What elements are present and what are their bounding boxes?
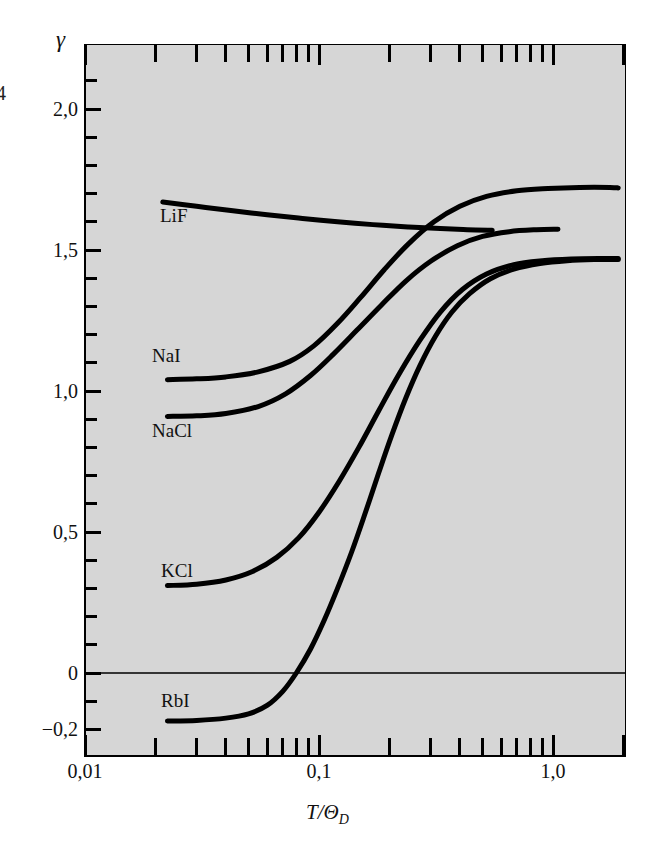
curve-nai <box>167 187 618 379</box>
curve-nacl <box>167 229 558 416</box>
curve-rbi <box>167 260 618 721</box>
curve-label-lif: LiF <box>160 205 187 227</box>
curve-label-nacl: NaCl <box>152 420 192 442</box>
x-axis-title-main: T/Θ <box>306 800 339 824</box>
x-axis-title: T/ΘD <box>0 800 655 828</box>
curve-label-nai: NaI <box>152 345 180 367</box>
curve-label-kcl: KCl <box>161 560 193 582</box>
figure-container: 4 γ 2,01,51,00,50−0,20,010,11,0 LiF NaI … <box>0 0 655 846</box>
x-axis-title-subscript: D <box>339 812 349 827</box>
curve-layer <box>0 0 655 846</box>
curve-label-rbi: RbI <box>161 690 190 712</box>
curve-kcl <box>167 258 618 585</box>
